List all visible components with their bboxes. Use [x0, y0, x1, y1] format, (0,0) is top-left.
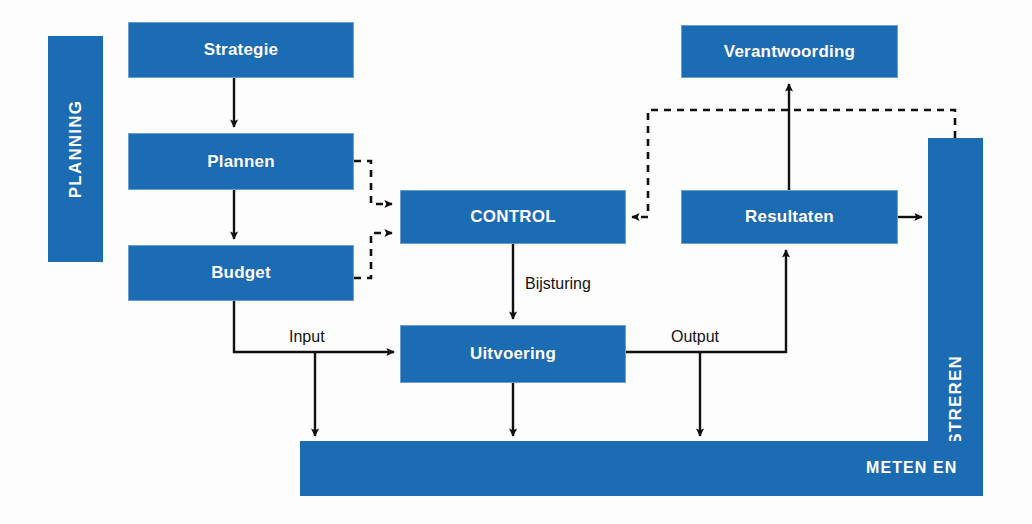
edge-label-output: Output: [671, 328, 719, 346]
planning-band: PLANNING: [48, 36, 103, 262]
dashed-budget-to-control: [354, 233, 392, 278]
box-verantwoording-label: Verantwoording: [724, 42, 855, 62]
box-uitvoering-label: Uitvoering: [470, 344, 556, 364]
box-resultaten-label: Resultaten: [745, 207, 834, 227]
edge-label-bijsturing: Bijsturing: [525, 275, 591, 293]
box-plannen[interactable]: Plannen: [128, 133, 354, 190]
diagram-canvas: PLANNING REGISTREREN METEN EN Strategie …: [0, 0, 1032, 524]
box-resultaten[interactable]: Resultaten: [681, 190, 898, 244]
dashed-plannen-to-control: [354, 161, 392, 204]
box-budget[interactable]: Budget: [128, 245, 354, 301]
box-strategie-label: Strategie: [204, 40, 279, 60]
box-uitvoering[interactable]: Uitvoering: [400, 325, 626, 383]
box-budget-label: Budget: [211, 263, 271, 283]
planning-band-label: PLANNING: [66, 89, 86, 209]
edge-label-input: Input: [289, 328, 325, 346]
box-control[interactable]: CONTROL: [400, 190, 626, 244]
box-plannen-label: Plannen: [207, 152, 275, 172]
box-strategie[interactable]: Strategie: [128, 22, 354, 78]
box-verantwoording[interactable]: Verantwoording: [681, 25, 898, 78]
meten-en-band-label: METEN EN: [866, 459, 957, 477]
box-control-label: CONTROL: [470, 207, 555, 227]
